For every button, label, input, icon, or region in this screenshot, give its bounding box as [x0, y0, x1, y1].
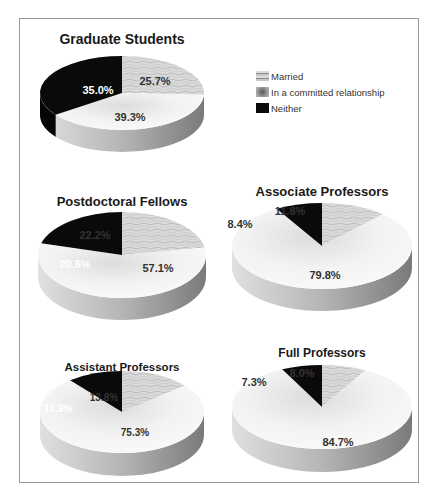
chart-title-associate-professors: Associate Professors	[256, 184, 389, 199]
slice-married	[122, 212, 205, 255]
chart-title-postdoctoral-fellows: Postdoctoral Fellows	[57, 194, 188, 209]
married-swatch-icon	[256, 71, 269, 81]
label-full-neither: 7.3%	[241, 376, 266, 388]
pie-associate-professors	[232, 203, 412, 311]
chart-title-assistant-professors: Assistant Professors	[64, 361, 179, 373]
legend-label: In a committed relationship	[271, 87, 385, 98]
label-grad-neither: 35.0%	[82, 84, 113, 96]
label-postdoc-married: 22.2%	[79, 229, 110, 241]
chart-title-graduate-students: Graduate Students	[59, 31, 184, 47]
committed-swatch-icon	[256, 87, 269, 97]
legend-label: Married	[271, 71, 303, 82]
label-assistant-neither: 10.9%	[44, 403, 72, 414]
legend: Married In a committed relationship Neit…	[256, 68, 385, 116]
pie-assistant-professors	[40, 371, 204, 476]
label-assistant-committed: 75.3%	[121, 427, 149, 438]
legend-item-married: Married	[256, 68, 385, 84]
neither-swatch-icon	[256, 103, 269, 113]
label-associate-neither: 8.4%	[227, 218, 252, 230]
pie-graduate-students	[40, 56, 204, 152]
label-full-committed: 84.7%	[322, 436, 353, 448]
label-assistant-married: 13.8%	[90, 392, 118, 403]
legend-item-committed: In a committed relationship	[256, 84, 385, 100]
label-associate-committed: 79.8%	[309, 269, 340, 281]
label-associate-married: 11.8%	[275, 205, 306, 217]
label-postdoc-committed: 57.1%	[142, 262, 173, 274]
legend-label: Neither	[271, 103, 302, 114]
label-postdoc-neither: 20.6%	[59, 258, 90, 270]
legend-item-neither: Neither	[256, 100, 385, 116]
chart-title-full-professors: Full Professors	[278, 346, 366, 360]
label-grad-committed: 39.3%	[114, 111, 145, 123]
label-grad-married: 25.7%	[139, 75, 170, 87]
label-full-married: 8.0%	[289, 367, 314, 379]
